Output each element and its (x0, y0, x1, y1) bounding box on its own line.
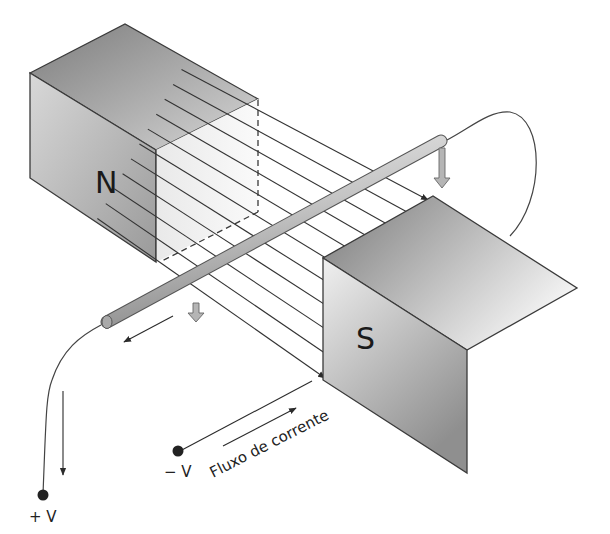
field-line (168, 268, 325, 378)
positive-terminal-label: + V (29, 508, 57, 526)
north-pole-label: N (95, 165, 117, 200)
negative-terminal (173, 446, 184, 457)
current-arrow-rod (124, 316, 173, 342)
positive-terminal (38, 490, 49, 501)
current-flow-label: Fluxo de corrente (207, 406, 332, 482)
force-arrow-right (434, 148, 450, 188)
force-arrow-left (188, 303, 204, 322)
south-pole-label: S (356, 321, 375, 356)
rod-end-cap (102, 316, 112, 329)
south-magnet: S (323, 196, 577, 473)
magnetic-induction-diagram: N S + V − V Fluxo de corrente (0, 0, 610, 534)
negative-terminal-label: − V (164, 463, 192, 481)
wire-left (43, 325, 101, 494)
north-magnet: N (30, 24, 258, 262)
diagram-canvas: N S + V − V Fluxo de corrente (0, 0, 610, 534)
field-line (186, 236, 346, 342)
